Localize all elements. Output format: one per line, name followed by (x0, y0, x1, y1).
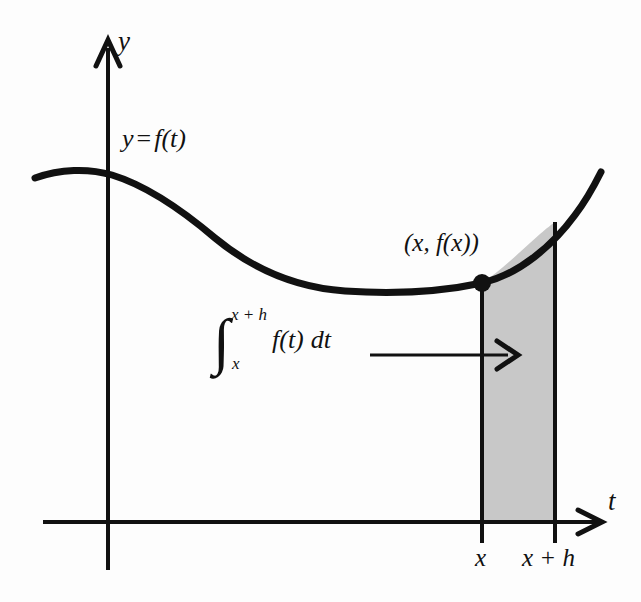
tick-label-x: x (475, 545, 486, 570)
curve-label-lhs: y (122, 124, 134, 153)
integral-sign: ∫ (213, 316, 230, 367)
curve-label-equals: = (134, 124, 155, 153)
curve-label-rhs: f(t) (154, 124, 186, 153)
integral-integrand: f(t) (272, 325, 304, 354)
figure-canvas (0, 0, 641, 602)
integral-integrand-group: f(t)dt (272, 327, 331, 353)
integral-expression: ∫ x + h x f(t)dt (213, 308, 331, 370)
point-coordinate-label: (x, f(x)) (404, 230, 479, 255)
tick-label-x-plus-h: x + h (522, 545, 575, 570)
calculus-figure: y t y=f(t) (x, f(x)) x x + h ∫ x + h x f… (0, 0, 641, 602)
integral-upper-limit: x + h (231, 306, 267, 323)
integral-limits: x + h x (231, 308, 267, 370)
integral-lower-limit: x (232, 355, 268, 372)
point-marker (473, 274, 491, 292)
integral-differential: dt (311, 325, 331, 354)
t-axis-label: t (608, 488, 616, 515)
curve-equation-label: y=f(t) (122, 126, 186, 152)
y-axis-label: y (118, 28, 130, 55)
